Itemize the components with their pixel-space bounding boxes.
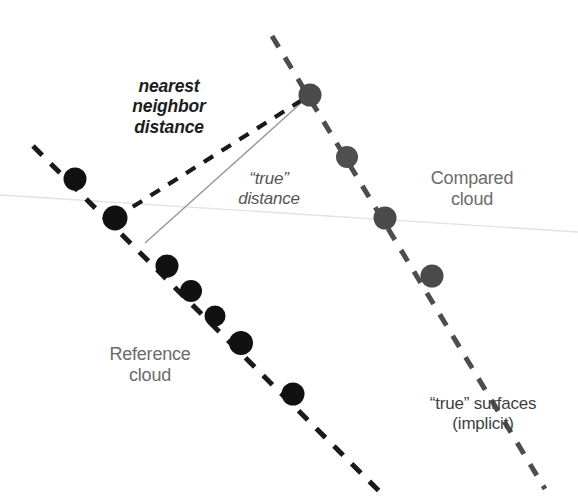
compared-point <box>374 207 397 230</box>
reference-point <box>64 168 87 191</box>
true-surfaces-label: “true” surfaces (implicit) <box>400 394 566 433</box>
reference-point <box>103 206 128 231</box>
compared-point <box>336 146 358 168</box>
compared-cloud-label: Compared cloud <box>407 168 537 210</box>
reference-point <box>229 331 253 355</box>
compared-point <box>299 84 322 107</box>
reference-point <box>156 255 179 278</box>
reference-point <box>180 280 202 302</box>
reference-point <box>282 383 305 406</box>
diagram-canvas: nearest neighbor distance “true” distanc… <box>0 0 578 501</box>
compared-point <box>421 265 444 288</box>
reference-cloud-label: Reference cloud <box>85 344 215 386</box>
true-distance-label: “true” distance <box>208 169 330 208</box>
reference-point <box>205 306 226 327</box>
nearest-neighbor-distance-label: nearest neighbor distance <box>104 76 234 137</box>
